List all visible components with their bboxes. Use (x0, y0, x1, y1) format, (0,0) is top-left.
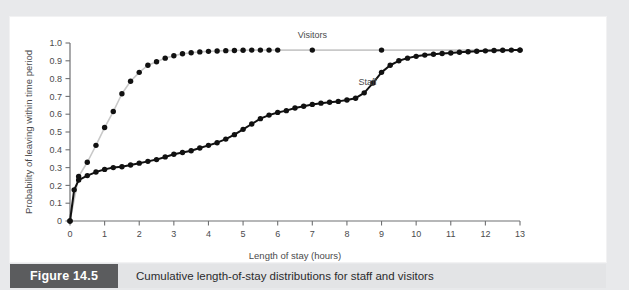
data-point-staff (71, 187, 76, 192)
data-point-staff (474, 48, 479, 53)
data-point-visitors (119, 91, 124, 96)
y-axis-tick-label: 0.9 (49, 56, 62, 66)
data-point-visitors (310, 47, 315, 52)
data-point-staff (266, 112, 271, 117)
data-point-visitors (111, 109, 116, 114)
x-axis-tick-label: 0 (67, 229, 72, 239)
data-point-staff (93, 169, 98, 174)
data-point-visitors (93, 143, 98, 148)
series-annotation-visitors: Visitors (298, 30, 328, 40)
data-point-staff (111, 165, 116, 170)
x-axis-tick-label: 10 (411, 229, 421, 239)
data-point-staff (431, 52, 436, 57)
x-axis-tick-label: 5 (241, 229, 246, 239)
data-point-visitors (154, 59, 159, 64)
y-axis-tick-label: 0.7 (49, 92, 62, 102)
data-point-staff (379, 70, 384, 75)
data-point-staff (310, 102, 315, 107)
data-point-staff (284, 108, 289, 113)
data-point-staff (214, 140, 219, 145)
data-point-staff (465, 49, 470, 54)
data-point-staff (491, 48, 496, 53)
data-point-staff (405, 55, 410, 60)
cumulative-distribution-chart: 01234567891011121300.10.20.30.40.50.60.7… (10, 17, 606, 262)
data-point-staff (336, 99, 341, 104)
data-point-visitors (180, 51, 185, 56)
x-axis-tick-label: 6 (275, 229, 280, 239)
data-point-staff (301, 103, 306, 108)
data-point-staff (85, 173, 90, 178)
x-axis-tick-label: 12 (480, 229, 490, 239)
data-point-staff (413, 54, 418, 59)
x-axis-tick-label: 8 (344, 229, 349, 239)
y-axis-tick-label: 0 (57, 216, 62, 226)
data-point-staff (67, 218, 72, 223)
data-point-visitors (206, 49, 211, 54)
figure-number-badge: Figure 14.5 (10, 264, 118, 288)
data-point-staff (422, 52, 427, 57)
data-point-staff (353, 95, 358, 100)
data-point-staff (509, 47, 514, 52)
data-point-visitors (145, 63, 150, 68)
data-point-visitors (171, 53, 176, 58)
data-point-staff (500, 48, 505, 53)
x-axis-tick-label: 13 (515, 229, 525, 239)
data-point-staff (249, 121, 254, 126)
data-point-staff (76, 177, 81, 182)
data-point-visitors (379, 47, 384, 52)
x-axis-tick-label: 1 (102, 229, 107, 239)
figure-caption: Cumulative length-of-stay distributions … (136, 264, 434, 288)
data-point-staff (180, 150, 185, 155)
x-axis-tick-label: 4 (206, 229, 211, 239)
data-point-staff (128, 162, 133, 167)
y-axis-tick-label: 0.3 (49, 163, 62, 173)
data-point-staff (145, 159, 150, 164)
data-point-staff (344, 97, 349, 102)
data-point-staff (162, 154, 167, 159)
data-point-visitors (223, 48, 228, 53)
data-point-staff (119, 164, 124, 169)
y-axis-tick-label: 0.8 (49, 74, 62, 84)
data-point-visitors (197, 49, 202, 54)
data-point-staff (171, 152, 176, 157)
series-line-visitors (70, 50, 520, 221)
series-annotation-staff: Staff (359, 77, 378, 87)
data-point-visitors (232, 48, 237, 53)
data-point-staff (232, 132, 237, 137)
data-point-staff (258, 116, 263, 121)
data-point-staff (102, 167, 107, 172)
data-point-staff (154, 157, 159, 162)
data-point-staff (457, 50, 462, 55)
x-axis-tick-label: 9 (379, 229, 384, 239)
data-point-staff (275, 110, 280, 115)
data-point-staff (448, 50, 453, 55)
data-point-staff (223, 136, 228, 141)
data-point-staff (197, 145, 202, 150)
data-point-visitors (102, 125, 107, 130)
data-point-visitors (240, 48, 245, 53)
data-point-visitors (266, 47, 271, 52)
axes-layer: 01234567891011121300.10.20.30.40.50.60.7… (49, 38, 525, 239)
data-point-staff (327, 100, 332, 105)
data-point-visitors (137, 70, 142, 75)
data-point-visitors (188, 50, 193, 55)
x-axis-tick-label: 7 (310, 229, 315, 239)
data-point-staff (517, 47, 522, 52)
y-axis-tick-label: 0.4 (49, 145, 62, 155)
y-axis-tick-label: 0.6 (49, 109, 62, 119)
data-point-visitors (214, 48, 219, 53)
x-axis-tick-label: 11 (446, 229, 455, 239)
data-point-staff (387, 63, 392, 68)
data-point-visitors (162, 55, 167, 60)
y-axis-tick-label: 0.5 (49, 127, 62, 137)
x-axis-tick-label: 2 (137, 229, 142, 239)
y-axis-title: Probability of leaving within time perio… (23, 50, 34, 214)
chart-panel: 01234567891011121300.10.20.30.40.50.60.7… (10, 17, 606, 262)
y-axis-tick-label: 0.2 (49, 181, 62, 191)
data-point-staff (206, 143, 211, 148)
x-axis-title: Length of stay (hours) (249, 250, 341, 261)
y-axis-tick-label: 1.0 (49, 38, 62, 48)
data-point-visitors (128, 79, 133, 84)
data-point-staff (439, 51, 444, 56)
series-layer (67, 47, 522, 223)
